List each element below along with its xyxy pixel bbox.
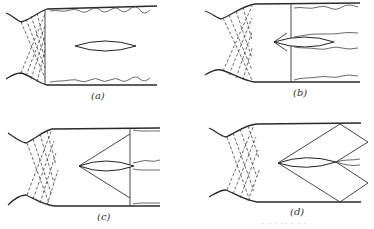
panel-b [205, 3, 360, 82]
diagram-figure [0, 0, 374, 229]
panel-label-a: (a) [91, 90, 105, 101]
panel-a [6, 6, 157, 85]
panel-label-d: (d) [290, 206, 304, 217]
panel-label-c: (c) [97, 211, 110, 222]
caption-fragment: · · · ·· · · · [262, 220, 307, 228]
panel-label-b: (b) [293, 87, 307, 98]
panel-d [209, 123, 368, 202]
panel-c [8, 128, 160, 206]
